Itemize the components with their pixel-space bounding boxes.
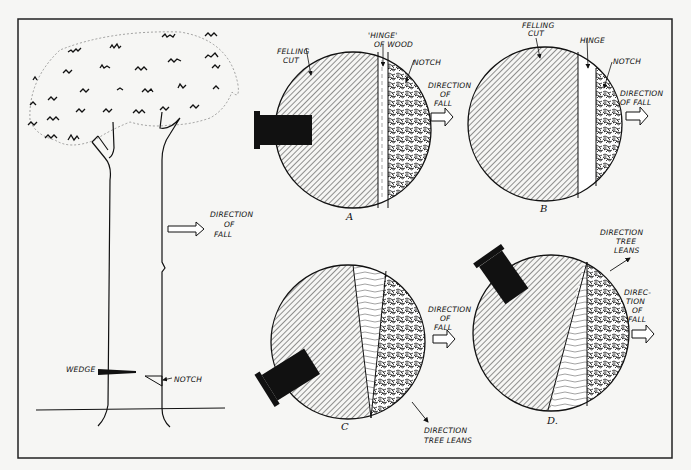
svg-text:CUT: CUT bbox=[528, 29, 545, 38]
notch-icon bbox=[145, 376, 162, 386]
svg-text:FALL: FALL bbox=[628, 315, 646, 324]
cross-section-d: DIRECTION TREE LEANS DIREC- TION OF FALL… bbox=[470, 228, 654, 426]
svg-text:CUT: CUT bbox=[283, 56, 300, 65]
svg-text:FALL: FALL bbox=[214, 230, 232, 239]
hinge-label: HINGE bbox=[580, 36, 605, 45]
direction-of-fall-arrow-icon bbox=[168, 222, 204, 236]
svg-text:OF: OF bbox=[224, 220, 235, 229]
panel-caption-c: C bbox=[341, 421, 349, 432]
direction-of-fall-arrow-icon bbox=[433, 330, 455, 348]
hinge-label: 'HINGE' bbox=[368, 31, 398, 40]
tree-trunk bbox=[92, 112, 180, 427]
direction-of-fall-arrow-icon bbox=[632, 325, 654, 343]
svg-text:TION: TION bbox=[626, 297, 645, 306]
direction-label: DIRECTION bbox=[428, 81, 471, 90]
notch-label: NOTCH bbox=[174, 375, 202, 384]
cross-section-c: DIRECTION OF FALL DIRECTION TREE LEANS C bbox=[254, 260, 472, 445]
direction-label: DIREC- bbox=[624, 288, 651, 297]
svg-text:OF: OF bbox=[440, 90, 451, 99]
wedge-block-icon bbox=[258, 115, 312, 145]
tree-canopy bbox=[30, 32, 239, 145]
svg-text:TREE LEANS: TREE LEANS bbox=[424, 436, 472, 445]
lean-arrow-icon bbox=[610, 258, 630, 271]
lean-arrow-icon bbox=[412, 402, 428, 422]
svg-text:OF: OF bbox=[632, 306, 643, 315]
cross-section-b: FELLING CUT HINGE NOTCH DIRECTION OF FAL… bbox=[465, 21, 663, 214]
svg-text:OF FALL: OF FALL bbox=[620, 98, 651, 107]
cross-section-a: FELLING CUT 'HINGE' OF WOOD NOTCH DIRECT… bbox=[254, 31, 471, 222]
svg-text:LEANS: LEANS bbox=[614, 246, 639, 255]
tree-felling-diagram: DIRECTION OF FALL WEDGE NOTCH FELLING CU… bbox=[0, 0, 691, 470]
tree-illustration: DIRECTION OF FALL WEDGE NOTCH bbox=[28, 32, 253, 427]
svg-text:OF WOOD: OF WOOD bbox=[374, 40, 413, 49]
panel-caption-a: A bbox=[345, 211, 353, 222]
felling-cut-label: FELLING bbox=[277, 47, 309, 56]
svg-text:FALL: FALL bbox=[434, 323, 452, 332]
notch-label: NOTCH bbox=[413, 58, 441, 67]
direction-label: DIRECTION bbox=[428, 305, 471, 314]
direction-of-fall-arrow-icon bbox=[431, 108, 453, 126]
svg-text:TREE: TREE bbox=[616, 237, 636, 246]
ground-line bbox=[36, 408, 225, 410]
lean-label: DIRECTION bbox=[424, 426, 467, 435]
tree-direction-label: DIRECTION bbox=[210, 210, 253, 219]
panel-caption-b: B bbox=[539, 203, 547, 214]
direction-label: DIRECTION bbox=[620, 89, 663, 98]
svg-text:OF: OF bbox=[440, 314, 451, 323]
direction-of-fall-arrow-icon bbox=[626, 107, 648, 125]
wedge-label: WEDGE bbox=[66, 365, 96, 374]
foliage-scribbles-icon bbox=[28, 33, 220, 140]
svg-text:FALL: FALL bbox=[434, 99, 452, 108]
wedge-icon bbox=[98, 369, 136, 375]
notch-label: NOTCH bbox=[613, 57, 641, 66]
lean-label: DIRECTION bbox=[600, 228, 643, 237]
panel-caption-d: D. bbox=[546, 415, 558, 426]
